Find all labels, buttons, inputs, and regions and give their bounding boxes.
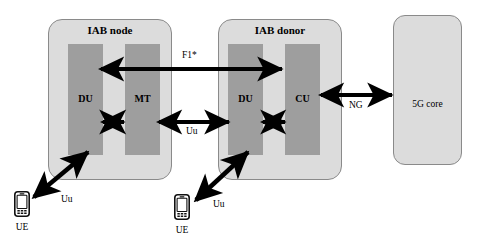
link-uu-access-left-arrow (34, 152, 88, 197)
ue-right-label: UE (168, 225, 196, 235)
ue-left-label: UE (8, 222, 36, 232)
link-f1star-label: F1* (182, 50, 197, 60)
link-uu-access-right-arrow (196, 152, 248, 200)
smartphone-icon (174, 194, 190, 220)
link-ng-label: NG (349, 100, 363, 110)
iab-architecture-figure: 5G core DU MT DU CU IAB node IAB donor (0, 0, 481, 245)
link-uu-access-right-label: Uu (213, 199, 225, 209)
smartphone-icon (14, 191, 30, 217)
link-uu-backhaul-label: Uu (186, 126, 198, 136)
link-uu-access-left-label: Uu (61, 194, 73, 204)
connection-arrows-layer (0, 0, 481, 245)
